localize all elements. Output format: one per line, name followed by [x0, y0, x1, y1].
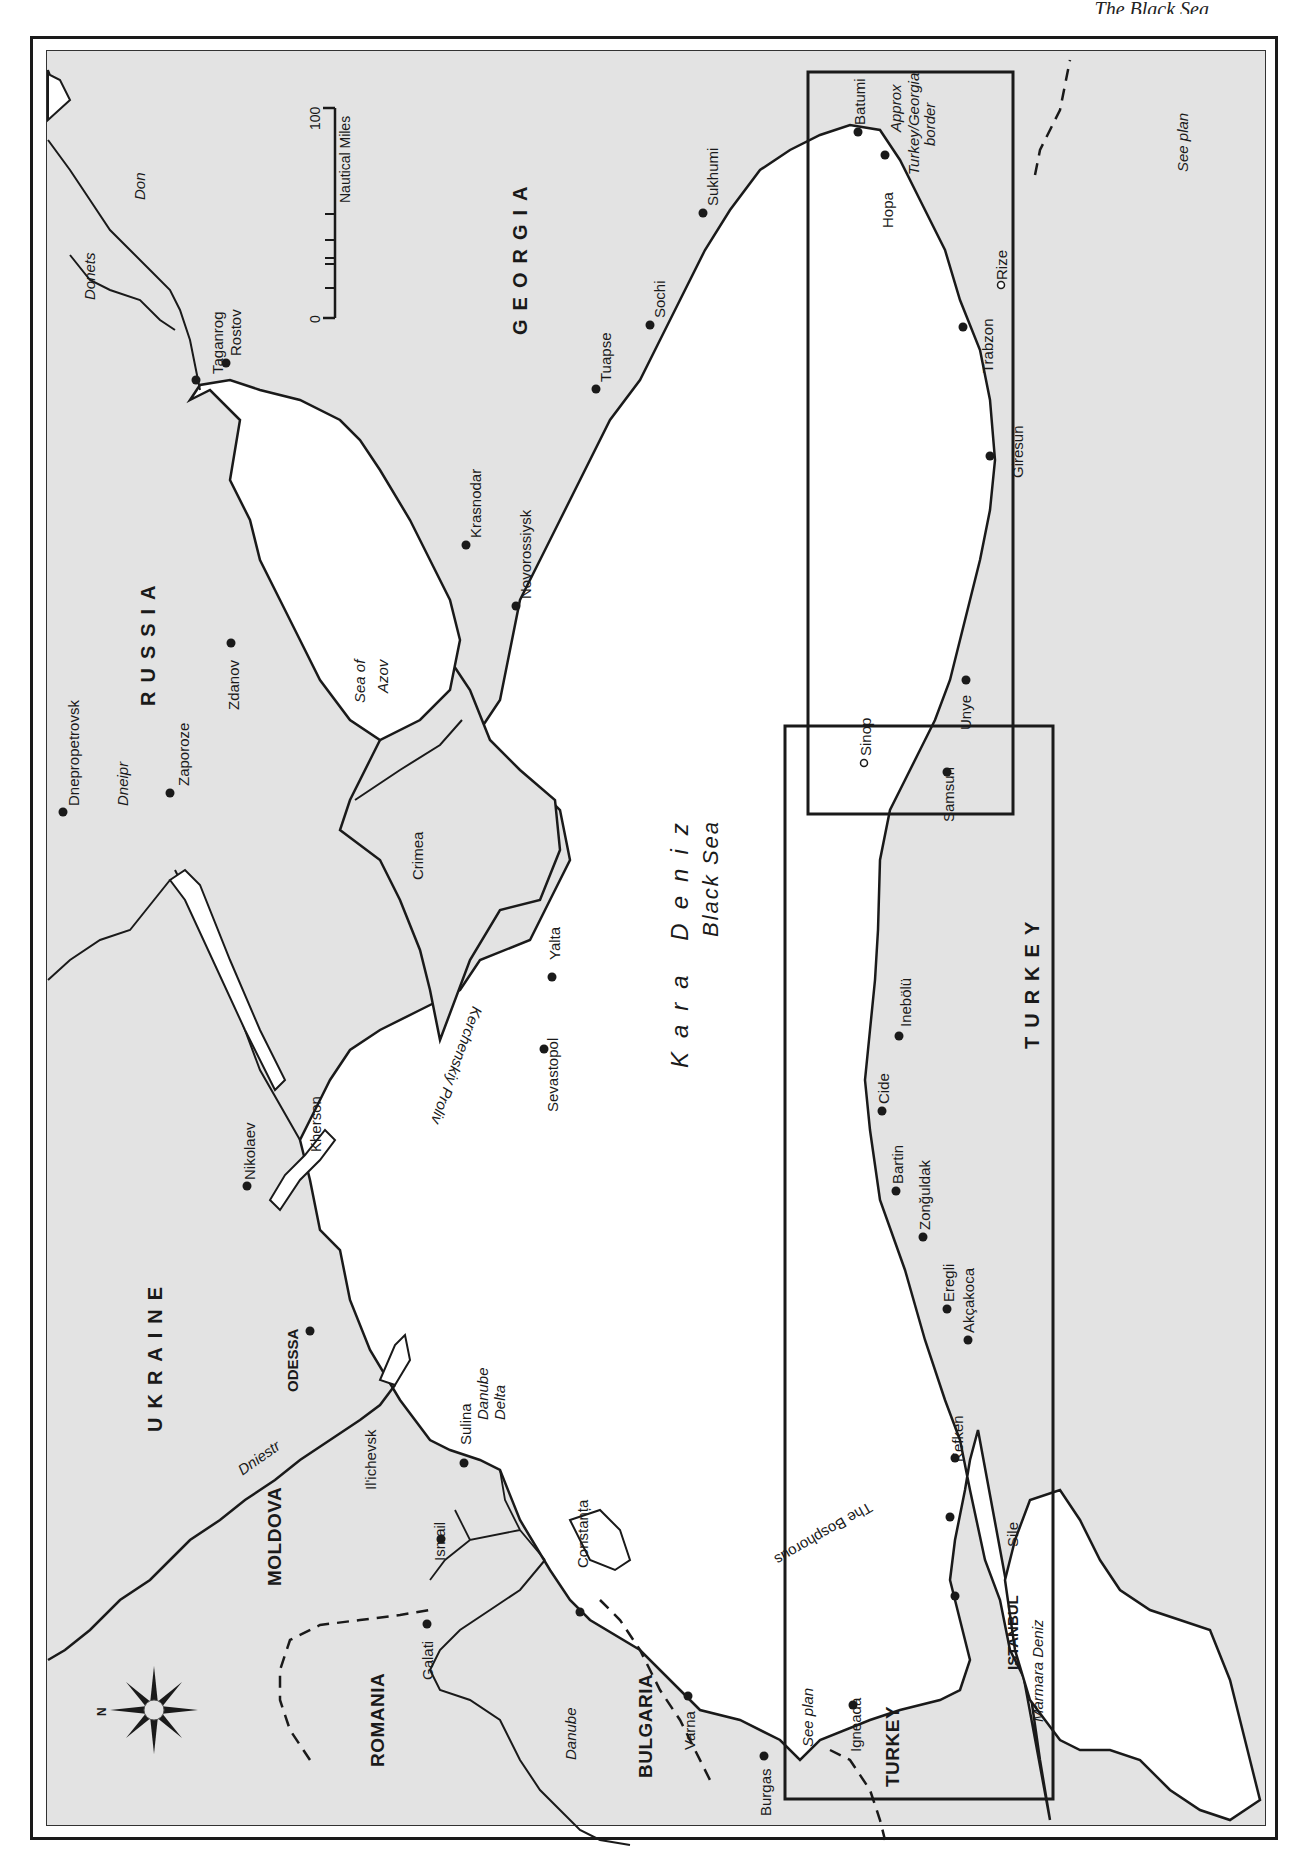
compass-rose	[110, 1666, 198, 1754]
label-moldova: MOLDOVA	[265, 1487, 284, 1586]
label-krasnodar: Krasnodar	[468, 469, 483, 538]
label-dneipr: Dneipr	[115, 762, 130, 806]
label-hopa: Hopa	[880, 192, 895, 228]
label-unye: Unye	[958, 695, 973, 730]
label-see-plan-east: See plan	[1175, 113, 1190, 172]
label-taganrog: Taganrog	[210, 311, 225, 374]
label-donets: Donets	[82, 252, 97, 300]
compass-north-label: N	[96, 1707, 108, 1716]
label-romania: ROMANIA	[368, 1673, 387, 1767]
label-eregli: Eregli	[941, 1264, 956, 1302]
label-giresun: Giresun	[1010, 425, 1025, 478]
label-border-approx: Approx	[888, 84, 903, 132]
label-sulina: Sulina	[458, 1403, 473, 1445]
border-turkey-georgia	[1035, 60, 1070, 175]
scale-bar	[323, 108, 335, 318]
label-don: Don	[132, 172, 147, 200]
label-samsun: Samsun	[941, 767, 956, 822]
label-varna: Varna	[682, 1711, 697, 1750]
label-zdanov: Zdanov	[226, 660, 241, 710]
label-galati: Galati	[420, 1641, 435, 1680]
border-bulgaria-turkey	[830, 1750, 885, 1840]
label-odessa: ODESSA	[285, 1329, 300, 1392]
label-ilichevsk: Il'ichevsk	[363, 1430, 378, 1490]
label-black-sea: Black Sea	[700, 820, 722, 937]
label-danube-delta-1: Danube	[475, 1367, 490, 1420]
tsimlyansk-reservoir	[48, 70, 70, 120]
label-see-plan-west: See plan	[800, 1688, 815, 1747]
label-russia: RUSSIA	[138, 576, 158, 706]
label-rize: Rize	[994, 250, 1009, 280]
label-tuapse: Tuapse	[598, 333, 613, 382]
label-novorossiysk: Novorossiysk	[518, 510, 533, 599]
label-istanbul: ISTANBUL	[1005, 1595, 1020, 1670]
label-crimea: Crimea	[410, 832, 425, 880]
label-inebolu: Inebölü	[898, 978, 913, 1027]
label-bulgaria: BULGARIA	[636, 1674, 655, 1778]
label-zaporoze: Zaporoze	[176, 723, 191, 786]
label-batumi: Batumi	[852, 78, 867, 125]
label-sukhumi: Sukhumi	[705, 148, 720, 206]
label-danube-river: Danube	[563, 1707, 578, 1760]
label-akcakoca: Akçakoca	[961, 1268, 976, 1333]
label-yalta: Yalta	[547, 927, 562, 960]
label-sochi: Sochi	[652, 280, 667, 318]
label-bartin: Bartin	[890, 1145, 905, 1184]
label-kefken: Kefken	[950, 1415, 965, 1462]
label-turkey-west: TURKEY	[883, 1706, 902, 1787]
label-sea-of: Sea of	[352, 660, 367, 703]
label-sinop: Sinop	[858, 718, 873, 756]
label-ismail: Ismail	[432, 1522, 447, 1561]
label-turkey-east: TURKEY	[1022, 913, 1042, 1049]
label-igneada: Igneada	[848, 1698, 863, 1752]
label-rostov: Rostov	[228, 309, 243, 356]
scale-label-min: 0	[308, 315, 322, 323]
label-georgia: GEORGIA	[510, 178, 530, 335]
scale-label-unit: Nautical Miles	[338, 116, 352, 203]
don-river	[48, 140, 200, 390]
dnieper-reservoir	[170, 870, 285, 1090]
label-ukraine: UKRAINE	[145, 1278, 165, 1432]
label-danube-delta-2: Delta	[492, 1385, 507, 1420]
label-dnepropetrovsk: Dnepropetrovsk	[66, 700, 81, 806]
border-moldova-romania	[280, 1610, 430, 1760]
label-cide: Cide	[876, 1073, 891, 1104]
label-azov: Azov	[375, 660, 390, 693]
label-border-turkey-georgia: Turkey/Georgia	[906, 73, 921, 175]
label-nikolaev: Nikolaev	[242, 1122, 257, 1180]
label-sile: Sile	[1005, 1522, 1020, 1547]
dniester-river	[48, 1385, 395, 1660]
label-marmara-deniz: Marmara Deniz	[1030, 1619, 1045, 1722]
scale-label-max: 100	[308, 107, 322, 130]
label-kherson: Kherson	[308, 1096, 323, 1152]
black-sea-map	[0, 0, 1309, 1856]
label-burgas: Burgas	[758, 1768, 773, 1816]
dnieper-upper	[48, 880, 170, 980]
label-kara-deniz: Kara Deniz	[668, 809, 692, 1068]
label-sevastopol: Sevastopol	[545, 1038, 560, 1112]
label-constanta: Constanța	[575, 1500, 590, 1568]
label-border-word: border	[922, 103, 937, 146]
label-zonguldak: Zonğuldak	[917, 1160, 932, 1230]
label-trabzon: Trabzon	[980, 319, 995, 373]
